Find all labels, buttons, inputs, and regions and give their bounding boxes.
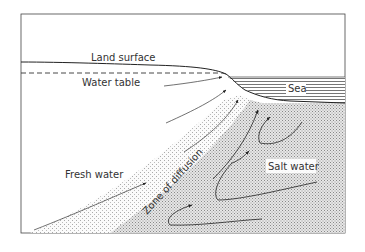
salt-water-label: Salt water bbox=[268, 161, 320, 172]
land-surface-label: Land surface bbox=[91, 52, 156, 63]
fresh-water-label: Fresh water bbox=[65, 169, 124, 180]
water-table-label: Water table bbox=[82, 77, 140, 88]
sea-label: Sea bbox=[288, 83, 307, 94]
saltwater-intrusion-diagram: Land surface Water table Sea Fresh water… bbox=[0, 0, 365, 252]
